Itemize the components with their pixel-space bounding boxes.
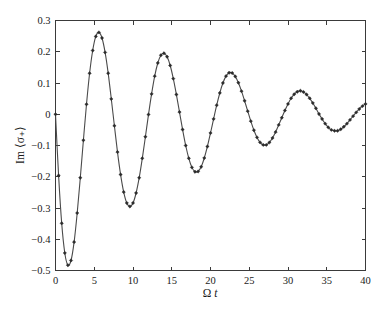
y-tick-label: −0.4	[31, 234, 51, 245]
y-axis-title-text: Im ⟨σ₊⟩	[14, 126, 26, 164]
y-tick-label: −0.5	[31, 265, 50, 276]
x-tick-label: 35	[322, 275, 333, 286]
figure-background	[0, 0, 388, 311]
x-tick-label: 5	[92, 275, 97, 286]
x-tick-label: 30	[283, 275, 294, 286]
y-tick-label: −0.1	[31, 140, 50, 151]
y-tick-label: 0.2	[37, 46, 50, 57]
y-tick-label: −0.3	[31, 203, 50, 214]
chart-plot: 0510152025303540 −0.5−0.4−0.3−0.2−0.100.…	[0, 0, 388, 311]
y-axis-title: Im ⟨σ₊⟩	[14, 126, 26, 164]
y-tick-label: −0.2	[31, 171, 50, 182]
y-tick-label: 0.3	[37, 15, 50, 26]
x-tick-label: 40	[360, 275, 371, 286]
figure-canvas: 0510152025303540 −0.5−0.4−0.3−0.2−0.100.…	[0, 0, 388, 311]
x-tick-label: 0	[53, 275, 58, 286]
x-tick-label: 20	[205, 275, 216, 286]
x-axis-title: Ωt	[203, 287, 219, 299]
y-tick-label: 0.1	[37, 78, 50, 89]
y-tick-label: 0	[45, 109, 50, 120]
x-tick-label: 15	[167, 275, 178, 286]
x-tick-label: 25	[244, 275, 255, 286]
x-tick-label: 10	[128, 275, 139, 286]
